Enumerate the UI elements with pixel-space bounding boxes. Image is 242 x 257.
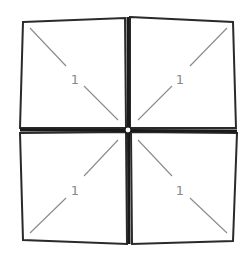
center-point bbox=[125, 127, 131, 133]
side-length-label: 1 bbox=[176, 183, 184, 198]
side-length-label: 1 bbox=[71, 183, 79, 198]
square-top-right: 1 bbox=[130, 17, 236, 128]
square-top-left: 1 bbox=[20, 18, 126, 128]
side-length-label: 1 bbox=[176, 72, 184, 87]
square-bottom-right: 1 bbox=[131, 132, 237, 244]
side-length-label: 1 bbox=[71, 72, 79, 87]
four-squares-diagram: 1111 bbox=[0, 0, 242, 257]
square-bottom-left: 1 bbox=[20, 132, 127, 244]
